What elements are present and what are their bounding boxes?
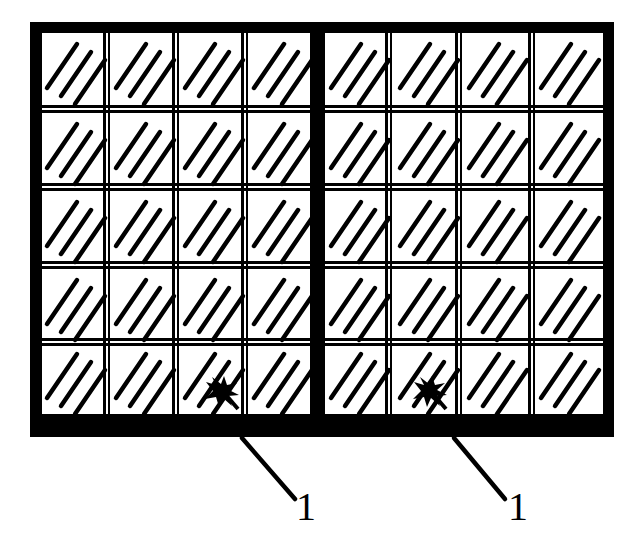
frame-right-bar bbox=[603, 22, 614, 437]
row-divider-1b bbox=[42, 110, 603, 113]
figure-drawing-canvas bbox=[0, 0, 641, 552]
column-divider-1b bbox=[108, 33, 110, 414]
column-divider-6 bbox=[528, 33, 531, 414]
column-divider-2b bbox=[177, 33, 179, 414]
reference-numeral-left: 1 bbox=[296, 487, 316, 527]
frame-left-bar bbox=[30, 22, 42, 437]
row-divider-2b bbox=[42, 188, 603, 191]
patent-figure: 1 1 bbox=[0, 0, 641, 552]
row-divider-3 bbox=[42, 261, 603, 264]
row-divider-1 bbox=[42, 105, 603, 108]
column-divider-3b bbox=[246, 33, 248, 414]
row-divider-4 bbox=[42, 338, 603, 341]
column-divider-6b bbox=[533, 33, 535, 414]
row-divider-2 bbox=[42, 183, 603, 186]
row-divider-3b bbox=[42, 266, 603, 269]
center-vertical-divider bbox=[310, 22, 325, 437]
reference-numeral-right: 1 bbox=[508, 487, 528, 527]
column-divider-4b bbox=[390, 33, 392, 414]
column-divider-5b bbox=[460, 33, 462, 414]
row-divider-4b bbox=[42, 343, 603, 346]
